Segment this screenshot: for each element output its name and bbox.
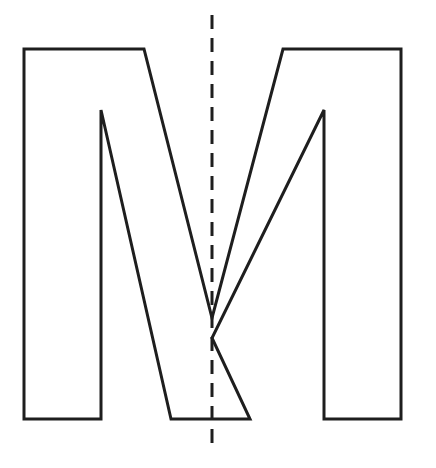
- letter-m-symmetry-diagram: [0, 0, 436, 468]
- diagram-canvas: Outline of capital letter M with vertica…: [0, 0, 436, 468]
